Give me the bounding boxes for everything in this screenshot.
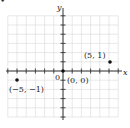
origin-label: 0 (55, 73, 60, 82)
point-5-1 (108, 60, 112, 64)
y-axis-label: y (56, 3, 62, 12)
point-label-origin: (0, 0) (67, 76, 89, 85)
point-label-neg5-neg1: (−5, −1) (9, 85, 44, 94)
point-origin (61, 69, 65, 73)
point-label-5-1: (5, 1) (84, 51, 106, 60)
x-axis-label: x (123, 68, 128, 77)
data-points: (−5, −1) (0, 0) (5, 1) (9, 51, 112, 94)
point-neg5-neg1 (15, 78, 19, 82)
coordinate-plane: x y 0 (−5, −1) (0, 0) (5, 1) (0, 0, 130, 128)
